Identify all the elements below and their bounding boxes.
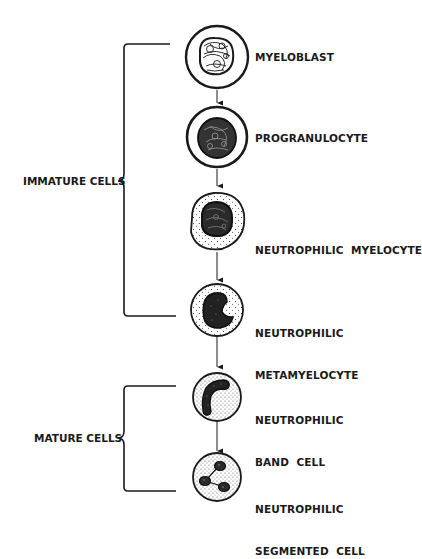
stage-label-line1: MYELOBLAST — [255, 50, 334, 64]
stage-label-neutrophilic-metamyelocyte: NEUTROPHILIC METAMYELOCYTE — [255, 298, 359, 396]
stage-label-progranulocyte: PROGRANULOCYTE — [255, 131, 368, 145]
mature-cells-label: MATURE CELLS — [34, 432, 122, 444]
stage-label-line1: PROGRANULOCYTE — [255, 131, 368, 145]
stage-label-line2: METAMYELOCYTE — [255, 368, 359, 382]
stage-label-myeloblast: MYELOBLAST — [255, 50, 334, 64]
stage-label-line1: NEUTROPHILIC MYELOCYTE — [255, 243, 422, 257]
stage-label-line2: BAND CELL — [255, 455, 344, 469]
stage-label-line1: NEUTROPHILIC — [255, 326, 359, 340]
immature-cells-label: IMMATURE CELLS — [23, 175, 126, 187]
neutrophilic-band-cell-icon — [193, 373, 241, 421]
immature-cells-bracket — [118, 44, 176, 316]
stage-label-neutrophilic-myelocyte: NEUTROPHILIC MYELOCYTE — [255, 215, 422, 271]
stage-label-neutrophilic-band-cell: NEUTROPHILIC BAND CELL — [255, 385, 344, 483]
mature-cells-bracket — [118, 386, 176, 491]
stage-label-line2: SEGMENTED CELL — [255, 544, 365, 558]
stage-label-line1: NEUTROPHILIC — [255, 413, 344, 427]
neutrophilic-metamyelocyte-cell-icon — [191, 284, 243, 336]
myeloblast-cell-icon — [186, 26, 248, 88]
stage-label-line1: NEUTROPHILIC — [255, 502, 365, 516]
progranulocyte-cell-icon — [187, 107, 247, 167]
stage-label-neutrophilic-segmented-cell: NEUTROPHILIC SEGMENTED CELL — [255, 474, 365, 559]
neutrophilic-myelocyte-cell-icon — [191, 193, 244, 249]
neutrophilic-segmented-cell-icon — [193, 453, 241, 501]
